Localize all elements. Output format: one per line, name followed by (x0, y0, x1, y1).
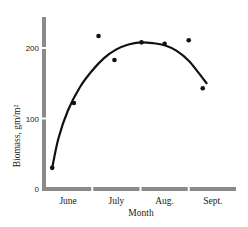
x-axis-segment (190, 187, 236, 191)
y-axis-title: Biomass, gm/m² (12, 105, 22, 168)
x-ticks: JuneJulyAug.Sept. (59, 196, 222, 206)
data-point (162, 41, 167, 46)
y-axis-segment (42, 120, 46, 192)
y-ticks: 0100200 (26, 44, 40, 194)
y-axis-segment (42, 17, 46, 47)
data-point (50, 166, 55, 171)
y-tick-label: 200 (26, 44, 40, 53)
data-point (72, 101, 77, 106)
data-point (186, 38, 191, 43)
x-axis-segment (42, 187, 91, 191)
y-tick-label: 0 (35, 185, 40, 194)
curve-layer (52, 42, 206, 168)
data-point (112, 58, 117, 63)
data-point (200, 86, 205, 91)
x-month-label: July (108, 196, 124, 206)
y-axis-segment (42, 49, 46, 118)
fitted-curve-line (52, 42, 206, 168)
x-axis-segment (142, 187, 188, 191)
data-point (139, 40, 144, 45)
x-axis-segment (93, 187, 139, 191)
x-month-label: Aug. (155, 196, 174, 206)
x-month-label: Sept. (203, 196, 222, 206)
x-axis-title: Month (128, 208, 154, 218)
y-tick-label: 100 (26, 115, 40, 124)
data-point (96, 34, 101, 39)
biomass-chart: 0100200 JuneJulyAug.Sept. Month Biomass,… (0, 0, 248, 227)
x-month-label: June (59, 196, 76, 206)
